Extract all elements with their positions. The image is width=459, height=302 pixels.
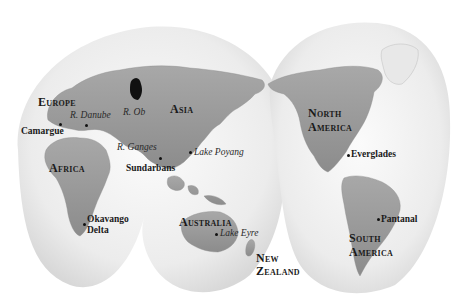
water-label-lake-poyang: Lake Poyang: [194, 148, 244, 158]
place-label-everglades: Everglades: [351, 150, 396, 160]
region-label-new-zealand: New Zealand: [256, 252, 300, 277]
water-label-lake-eyre: Lake Eyre: [220, 229, 258, 239]
sundarbans-marker-icon: [159, 157, 162, 160]
place-label-pantanal: Pantanal: [381, 215, 417, 225]
region-label-europe: Europe: [38, 96, 76, 108]
lake-poyang-marker-icon: [189, 151, 192, 154]
region-label-asia: Asia: [170, 103, 193, 115]
okavango-marker-icon: [83, 223, 86, 226]
lake-eyre-marker-icon: [215, 233, 218, 236]
place-label-camargue: Camargue: [21, 127, 64, 137]
water-label-r-ob: R. Ob: [123, 108, 145, 118]
danube-marker-icon: [85, 124, 88, 127]
place-label-sundarbans: Sundarbans: [126, 164, 175, 174]
pantanal-marker-icon: [377, 218, 380, 221]
water-label-r-ganges: R. Ganges: [117, 143, 157, 153]
place-label-okavango-delta: Okavango Delta: [87, 214, 129, 236]
region-label-australia: Australia: [179, 216, 232, 228]
region-label-north-america: North America: [308, 107, 352, 135]
region-label-africa: Africa: [49, 162, 85, 174]
region-label-south-america: South America: [349, 232, 393, 260]
water-label-r-danube: R. Danube: [70, 111, 111, 121]
everglades-marker-icon: [347, 154, 350, 157]
